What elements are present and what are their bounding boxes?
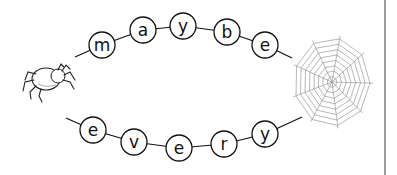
- letter-bead: r: [211, 131, 237, 157]
- spider-icon: [23, 64, 75, 102]
- word-chain-every: every: [66, 117, 302, 161]
- bead-letter: y: [178, 16, 188, 36]
- bead-letter: v: [129, 132, 139, 152]
- letter-bead: e: [252, 32, 278, 58]
- bead-letter: r: [221, 134, 228, 154]
- letter-bead: e: [166, 135, 192, 161]
- bead-letter: e: [260, 35, 270, 55]
- word-chain-maybe: maybe: [75, 13, 292, 58]
- letter-bead: e: [80, 117, 106, 143]
- worksheet-canvas: maybeevery: [0, 0, 397, 175]
- bead-letter: y: [260, 124, 270, 144]
- spider-web-icon: [293, 36, 373, 129]
- bead-letter: e: [174, 138, 184, 158]
- letter-bead: v: [121, 129, 147, 155]
- letter-bead: y: [170, 13, 196, 39]
- bead-letter: b: [222, 22, 233, 42]
- letter-bead: a: [130, 17, 156, 43]
- letter-bead: b: [214, 19, 240, 45]
- letter-bead: m: [89, 32, 115, 58]
- letter-bead: y: [252, 121, 278, 147]
- bead-letter: m: [94, 35, 111, 55]
- bead-letter: e: [88, 120, 98, 140]
- bead-letter: a: [138, 20, 148, 40]
